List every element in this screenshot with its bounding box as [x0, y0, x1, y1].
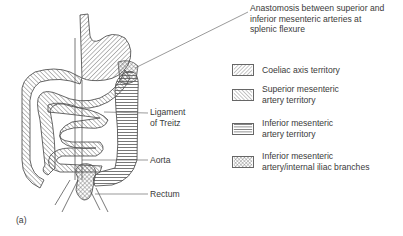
aorta-label: Aorta — [150, 155, 171, 166]
legend-ima: Inferior mesenteric artery territory — [262, 118, 333, 139]
gut-arterial-supply-diagram — [0, 0, 403, 236]
rectum-label: Rectum — [150, 189, 180, 200]
sma-swatch — [232, 89, 254, 101]
legend-sma: Superior mesenteric artery territory — [262, 84, 339, 105]
anastomosis-leader — [135, 12, 248, 68]
ligament-of-treitz-label: Ligament of Treitz — [150, 107, 185, 128]
rectum — [76, 164, 96, 200]
ima-iliac-swatch — [232, 156, 254, 168]
anastomosis-label: Anastomosis between superior and inferio… — [250, 3, 384, 35]
splenic-flexure-anastomosis — [118, 61, 138, 84]
legend-coeliac: Coeliac axis territory — [262, 65, 340, 76]
panel-label: (a) — [16, 215, 27, 226]
ima-swatch — [232, 123, 254, 135]
small-bowel — [48, 103, 108, 172]
coeliac-swatch — [232, 64, 254, 76]
legend-ima-iliac: Inferior mesenteric artery/internal ilia… — [262, 151, 369, 172]
